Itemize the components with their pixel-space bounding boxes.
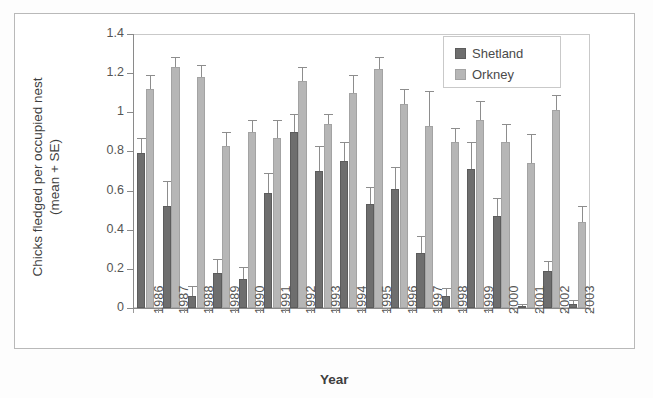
y-tick-label: 1.4 <box>96 27 124 40</box>
x-tick-mark <box>565 309 566 313</box>
error-bar-orkney-1992 <box>302 67 303 81</box>
error-bar-cap-orkney-1988 <box>197 65 206 66</box>
x-tick-label-1999: 1999 <box>482 268 496 314</box>
error-bar-shetland-1996 <box>395 167 396 189</box>
error-bar-cap-orkney-1994 <box>349 75 358 76</box>
error-bar-cap-orkney-1996 <box>400 89 409 90</box>
error-bar-orkney-1987 <box>175 57 176 67</box>
x-tick-label-2000: 2000 <box>507 268 521 314</box>
error-bar-orkney-1993 <box>328 114 329 124</box>
error-bar-shetland-2002 <box>548 261 549 271</box>
error-bar-shetland-1993 <box>319 146 320 171</box>
error-bar-shetland-1992 <box>294 114 295 132</box>
x-tick-label-1993: 1993 <box>329 268 343 314</box>
error-bar-shetland-1998 <box>446 288 447 296</box>
y-axis-line <box>133 34 134 309</box>
y-tick-label: 0.4 <box>96 223 124 236</box>
error-bar-cap-shetland-1991 <box>264 173 273 174</box>
error-bar-orkney-1997 <box>429 91 430 126</box>
x-tick-mark <box>336 309 337 313</box>
x-tick-mark <box>539 309 540 313</box>
error-bar-cap-shetland-1987 <box>163 181 172 182</box>
error-bar-orkney-1991 <box>277 120 278 138</box>
y-axis-title: Chicks fledged per occupied nest (mean +… <box>29 27 63 327</box>
x-tick-mark <box>463 309 464 313</box>
error-bar-orkney-2003 <box>582 206 583 222</box>
x-tick-label-1994: 1994 <box>355 268 369 314</box>
error-bar-orkney-1999 <box>480 101 481 121</box>
x-tick-label-1991: 1991 <box>279 268 293 314</box>
x-tick-label-1986: 1986 <box>152 268 166 314</box>
x-tick-mark <box>235 309 236 313</box>
error-bar-cap-shetland-2002 <box>544 261 553 262</box>
x-tick-label-1992: 1992 <box>304 268 318 314</box>
error-bar-shetland-1986 <box>141 138 142 154</box>
y-tick-label: 0.2 <box>96 262 124 275</box>
error-bar-orkney-1994 <box>353 75 354 93</box>
error-bar-cap-orkney-1993 <box>324 114 333 115</box>
error-bar-shetland-1999 <box>471 142 472 169</box>
error-bar-orkney-1989 <box>226 132 227 146</box>
x-axis-title: Year <box>320 372 349 387</box>
x-tick-mark <box>590 309 591 313</box>
error-bar-cap-orkney-1986 <box>146 75 155 76</box>
x-tick-label-1989: 1989 <box>228 268 242 314</box>
error-bar-cap-shetland-1994 <box>340 142 349 143</box>
legend-item-shetland: Shetland <box>455 45 523 61</box>
legend-label: Orkney <box>472 68 514 81</box>
x-tick-mark <box>514 309 515 313</box>
error-bar-orkney-1990 <box>252 120 253 132</box>
error-bar-shetland-1989 <box>217 259 218 273</box>
x-tick-mark <box>488 309 489 313</box>
error-bar-cap-shetland-1986 <box>137 138 146 139</box>
x-tick-mark <box>184 309 185 313</box>
error-bar-orkney-1996 <box>404 89 405 105</box>
error-bar-shetland-1997 <box>421 236 422 254</box>
x-tick-mark <box>209 309 210 313</box>
x-tick-label-1996: 1996 <box>406 268 420 314</box>
legend-swatch-orkney-icon <box>455 69 466 80</box>
x-tick-label-1988: 1988 <box>202 268 216 314</box>
y-tick-label: 1.2 <box>96 66 124 79</box>
error-bar-orkney-1998 <box>455 128 456 142</box>
error-bar-orkney-1986 <box>150 75 151 89</box>
y-axis-title-line1: Chicks fledged per occupied nest <box>30 78 45 277</box>
x-tick-mark <box>362 309 363 313</box>
x-tick-mark <box>285 309 286 313</box>
x-tick-label-2001: 2001 <box>533 268 547 314</box>
legend-item-orkney: Orkney <box>455 66 514 82</box>
x-tick-mark <box>387 309 388 313</box>
error-bar-shetland-1994 <box>344 142 345 162</box>
y-tick-label: 0.6 <box>96 184 124 197</box>
error-bar-cap-orkney-1990 <box>248 120 257 121</box>
y-tick-label: 0 <box>96 301 124 314</box>
legend-swatch-shetland-icon <box>455 48 466 59</box>
x-tick-label-1997: 1997 <box>431 268 445 314</box>
figure-container: 00.20.40.60.811.21.4 1986198719881989199… <box>0 0 653 398</box>
error-bar-shetland-1987 <box>167 181 168 206</box>
error-bar-orkney-2001 <box>531 134 532 163</box>
error-bar-cap-shetland-1993 <box>315 146 324 147</box>
error-bar-cap-shetland-1997 <box>417 236 426 237</box>
x-tick-mark <box>438 309 439 313</box>
legend-label: Shetland <box>472 47 523 60</box>
x-tick-mark <box>158 309 159 313</box>
x-tick-label-2003: 2003 <box>583 268 597 314</box>
bar-shetland-1986 <box>137 153 145 308</box>
error-bar-cap-orkney-1992 <box>298 67 307 68</box>
error-bar-cap-orkney-2001 <box>527 134 536 135</box>
error-bar-cap-orkney-1999 <box>476 101 485 102</box>
x-tick-mark <box>412 309 413 313</box>
error-bar-shetland-1988 <box>192 286 193 296</box>
y-tick-label: 0.8 <box>96 144 124 157</box>
x-tick-label-2002: 2002 <box>558 268 572 314</box>
x-tick-mark <box>260 309 261 313</box>
error-bar-orkney-2002 <box>556 95 557 111</box>
error-bar-shetland-1991 <box>268 173 269 193</box>
error-bar-cap-shetland-2000 <box>493 198 502 199</box>
x-tick-mark <box>311 309 312 313</box>
x-tick-label-1987: 1987 <box>177 268 191 314</box>
error-bar-cap-shetland-1992 <box>290 114 299 115</box>
x-tick-mark <box>133 309 134 313</box>
error-bar-cap-orkney-1995 <box>375 57 384 58</box>
